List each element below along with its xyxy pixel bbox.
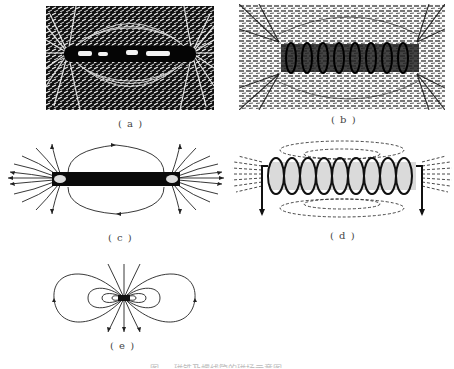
panel-b-label: ( b ) — [331, 114, 357, 125]
panel-e-dipole-field-lines: ( e ) — [52, 262, 197, 362]
panel-c-bar-magnet-field-lines: ( c ) — [6, 140, 228, 240]
panel-d-solenoid-field-lines: ( d ) — [232, 136, 454, 240]
iron-filings-solenoid-image — [239, 4, 445, 110]
figure-caption: 图 ⋯ 磁铁及螺线管的磁场示意图 — [150, 362, 320, 368]
panel-e-label: ( e ) — [110, 340, 135, 351]
solenoid-field-lines-diagram — [232, 136, 454, 222]
dipole-field-lines-diagram — [52, 262, 197, 334]
panel-c-label: ( c ) — [108, 232, 133, 243]
panel-a-bar-magnet-filings: ( a ) — [46, 6, 214, 110]
panel-d-label: ( d ) — [330, 230, 356, 241]
bar-magnet-field-lines-diagram — [6, 140, 228, 220]
iron-filings-bar-magnet-image — [46, 6, 214, 110]
panel-b-solenoid-filings: ( b ) — [239, 4, 445, 110]
panel-a-label: ( a ) — [118, 118, 143, 129]
